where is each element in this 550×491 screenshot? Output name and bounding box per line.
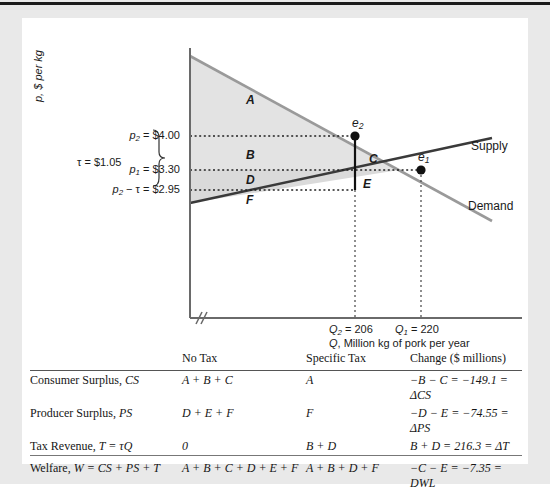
equilibrium-label-e1: e1 [418,151,429,165]
equilibrium-label-e2: e2 [352,117,363,131]
region-label-d: D [246,174,255,186]
region-label-e: E [363,178,371,190]
supply-demand-chart: p, $ per kg p2 = $4.00 p1 = $3.30 p2 − τ… [22,18,528,348]
equilibrium-point-e2 [350,131,359,140]
row-label-welfare: Welfare, W = CS + PS + T [30,456,182,491]
cell-change-welfare: −C − E = −7.35 = DWL [410,456,522,491]
table-header-change: Change ($ millions) [410,350,522,371]
tax-amount-label: τ = $1.05 [77,157,121,168]
table-header-row: No Tax Specific Tax Change ($ millions) [30,350,522,371]
cell-change-cs: −B − C = −149.1 = ΔCS [410,371,522,405]
price-label-p2-minus-tau: p2 − τ = $2.95 [52,184,180,197]
table-header-specific-tax: Specific Tax [306,350,410,371]
row-label-producer-surplus: Producer Surplus, PS [30,404,182,437]
row-label-tax-revenue: Tax Revenue, T = τQ [30,437,182,456]
table-header-blank [30,350,182,371]
equilibrium-point-e1 [416,165,425,174]
row-label-consumer-surplus: Consumer Surplus, CS [30,371,182,405]
figure-card: p, $ per kg p2 = $4.00 p1 = $3.30 p2 − τ… [22,18,528,464]
table-row: Tax Revenue, T = τQ 0 B + D B + D = 216.… [30,437,522,456]
table-row: Consumer Surplus, CS A + B + C A −B − C … [30,371,522,405]
demand-curve-label: Demand [468,200,513,212]
supply-curve-label: Supply [471,140,508,152]
cell-change-t: B + D = 216.3 = ΔT [410,437,522,456]
welfare-table-wrap: No Tax Specific Tax Change ($ millions) … [30,350,522,491]
quantity-label-q1: Q1 = 220 [395,324,439,337]
cell-specific-tax-cs: A [306,371,410,405]
cell-no-tax-t: 0 [182,437,306,456]
region-label-c: C [369,153,378,165]
region-label-f: F [246,194,253,206]
cell-specific-tax-welfare: A + B + D + F [306,456,410,491]
cell-no-tax-ps: D + E + F [182,404,306,437]
table-row: Producer Surplus, PS D + E + F F −D − E … [30,404,522,437]
cell-specific-tax-t: B + D [306,437,410,456]
region-label-a: A [246,94,255,106]
cell-no-tax-welfare: A + B + C + D + E + F [182,456,306,491]
chart-svg [22,18,528,348]
x-axis-title: Q, Million kg of pork per year [329,338,470,349]
cell-specific-tax-ps: F [306,404,410,437]
price-label-p2: p2 = $4.00 [70,130,180,143]
cell-no-tax-cs: A + B + C [182,371,306,405]
table-total-row: Welfare, W = CS + PS + T A + B + C + D +… [30,456,522,491]
quantity-label-q2: Q2 = 206 [329,324,373,337]
cell-change-ps: −D − E = −74.55 = ΔPS [410,404,522,437]
region-label-b: B [246,149,255,161]
welfare-table: No Tax Specific Tax Change ($ millions) … [30,350,522,491]
y-axis-title: p, $ per kg [32,16,44,136]
top-divider-rule [0,2,550,5]
table-header-no-tax: No Tax [182,350,306,371]
